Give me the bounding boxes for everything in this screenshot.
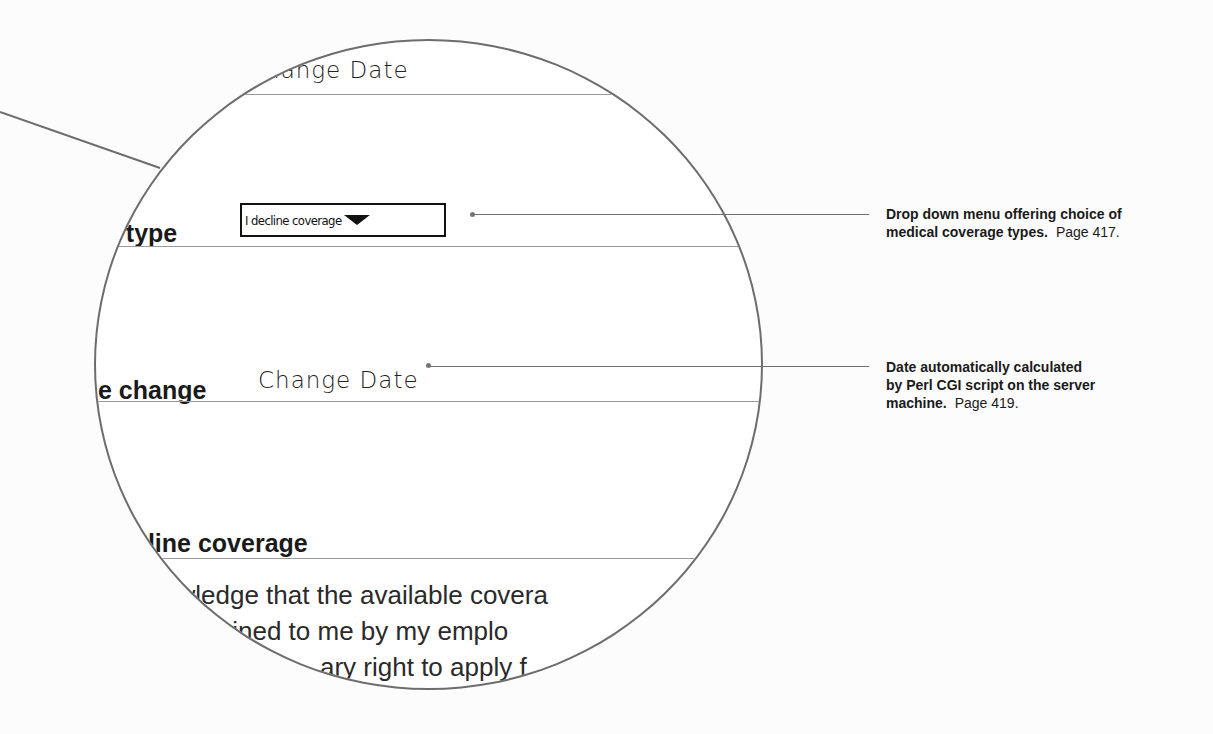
callout-text: machine. [886,395,947,411]
triangle-down-icon[interactable] [344,215,370,225]
callout-line-dropdown [472,214,869,215]
callout-text: Date automatically calculated [886,359,1082,375]
top-change-date-value: Change Date [248,57,409,83]
divider [94,401,763,402]
divider [94,558,763,559]
callout-date-note: Date automatically calculated by Perl CG… [886,358,1095,412]
callout-page-ref: Page 419. [955,395,1019,411]
callout-text: Drop down menu offering choice of [886,206,1122,222]
date-change-value: Change Date [258,367,419,393]
dropdown-selected-value: I decline coverage [245,213,342,228]
divider [94,94,763,95]
divider [94,246,763,247]
callout-dropdown-note: Drop down menu offering choice of medica… [886,205,1122,241]
coverage-type-dropdown[interactable]: I decline coverage [240,203,446,237]
callout-text: by Perl CGI script on the server [886,377,1095,393]
callout-page-ref: Page 417. [1056,224,1120,240]
decline-body-line: lained to me by my emplo [212,616,508,647]
callout-text: medical coverage types. [886,224,1048,240]
callout-line-date [428,366,869,367]
decline-body-line: ary right to apply f [320,652,527,683]
decline-body-line: owledge that the available covera [162,580,548,611]
coverage-type-label: e type [105,219,177,248]
decline-coverage-heading: cline coverage [134,529,308,558]
